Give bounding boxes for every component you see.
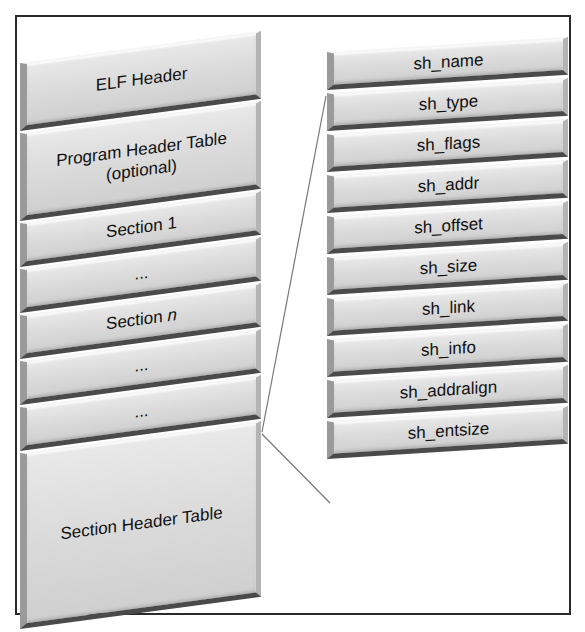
block-label: Section Header Table bbox=[60, 502, 222, 545]
field-label: sh_type bbox=[419, 92, 479, 114]
field-label: sh_link bbox=[422, 297, 475, 318]
field-label: sh_offset bbox=[414, 215, 483, 237]
field-label: sh_name bbox=[414, 51, 484, 73]
field-label: sh_entsize bbox=[408, 419, 489, 442]
block-label: ... bbox=[134, 400, 148, 423]
field-label: sh_size bbox=[420, 256, 478, 278]
block-label: ELF Header bbox=[96, 63, 188, 96]
field-label: sh_addr bbox=[418, 174, 479, 196]
block-label-text: Section bbox=[106, 306, 167, 333]
block-label: Section 1 bbox=[106, 212, 177, 242]
block-label-italic: n bbox=[167, 305, 176, 325]
block-label: Section n bbox=[106, 304, 177, 334]
block-label: ... bbox=[134, 262, 148, 285]
elf-file-layout-stack: ELF Header Program Header Table (optiona… bbox=[20, 31, 261, 631]
block-section-header-table: Section Header Table bbox=[20, 421, 261, 629]
field-label: sh_info bbox=[421, 338, 476, 359]
field-label: sh_flags bbox=[417, 133, 480, 155]
section-header-fields-stack: sh_name sh_type sh_flags sh_addr sh_offs… bbox=[327, 37, 568, 462]
block-label: ... bbox=[134, 354, 148, 377]
field-label: sh_addralign bbox=[400, 378, 497, 402]
